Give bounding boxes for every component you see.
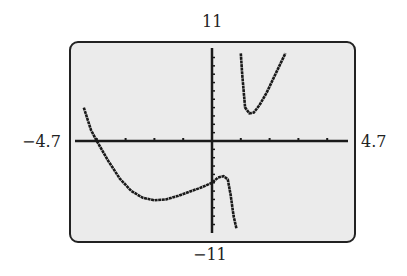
graph-curve	[84, 108, 237, 229]
graph-plot	[0, 0, 407, 276]
graph-curve	[241, 53, 286, 113]
